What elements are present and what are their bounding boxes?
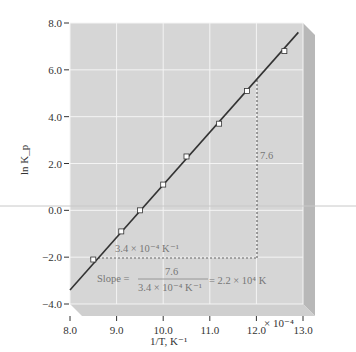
svg-text:−4.0: −4.0: [42, 298, 62, 310]
svg-text:4.0: 4.0: [48, 111, 62, 123]
svg-text:9.0: 9.0: [110, 324, 124, 336]
slope-numerator: 7.6: [165, 266, 178, 277]
rise-label: 7.6: [260, 150, 273, 161]
svg-text:−2.0: −2.0: [42, 251, 62, 263]
plot-side-panel: [303, 23, 315, 316]
svg-text:6.0: 6.0: [48, 64, 62, 76]
svg-text:8.0: 8.0: [63, 324, 77, 336]
slope-label: Slope =: [97, 273, 130, 284]
x-axis-label: 1/T, K⁻¹: [150, 335, 187, 347]
run-label: 3.4 × 10⁻⁴ K⁻¹: [115, 243, 179, 254]
x-multiplier: × 10⁻⁴: [264, 317, 294, 329]
svg-text:11.0: 11.0: [200, 324, 219, 336]
y-axis-label: ln K_p: [18, 144, 30, 175]
svg-text:2.0: 2.0: [48, 158, 62, 170]
slope-result: = 2.2 × 10⁴ K: [209, 275, 267, 286]
chart: 8.06.04.02.00.0−2.0−4.0 8.09.010.011.012…: [0, 0, 356, 352]
svg-text:8.0: 8.0: [48, 17, 62, 29]
slope-denominator: 3.4 × 10⁻⁴ K⁻¹: [138, 282, 202, 293]
svg-text:13.0: 13.0: [293, 324, 313, 336]
plot-bottom-panel: [70, 304, 315, 316]
svg-text:0.0: 0.0: [48, 204, 62, 216]
y-axis-ticks: 8.06.04.02.00.0−2.0−4.0: [42, 17, 69, 310]
